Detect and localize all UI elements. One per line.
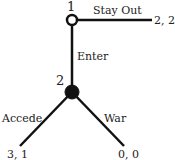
player-1-label: 1 [67, 0, 75, 14]
enter-label: Enter [77, 50, 109, 63]
player-2-node [65, 85, 79, 99]
accede-label: Accede [1, 112, 42, 125]
accede-payoff: 3, 1 [7, 148, 28, 160]
stay-out-payoff: 2, 2 [154, 14, 175, 27]
war-label: War [104, 112, 127, 125]
player-2-label: 2 [56, 73, 64, 88]
stay-out-label: Stay Out [93, 4, 142, 17]
war-payoff: 0, 0 [118, 148, 139, 160]
game-tree-diagram: Stay Out 2, 2 Enter Accede 3, 1 War 0, 0… [0, 0, 175, 160]
player-1-node [67, 15, 77, 25]
